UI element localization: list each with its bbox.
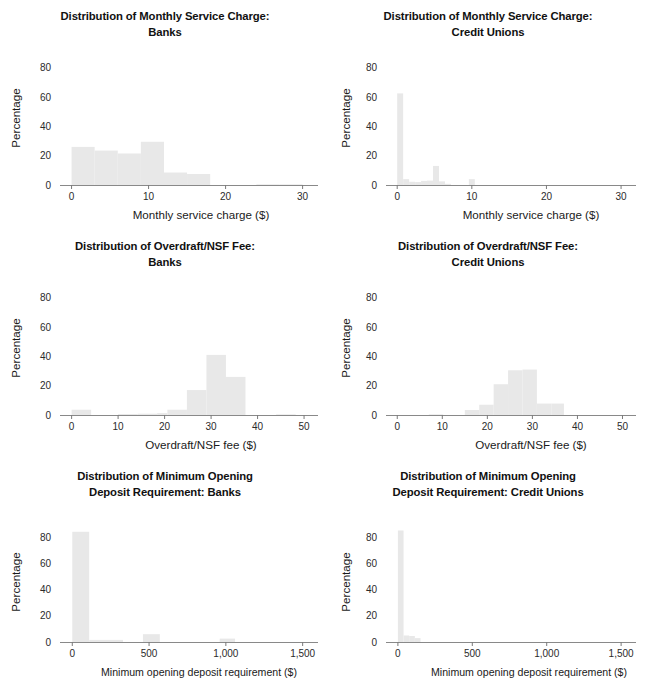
y-axis-title: Percentage <box>339 318 352 377</box>
y-tick-label: 20 <box>366 610 378 621</box>
x-axis: 05001,0001,500 <box>70 643 316 660</box>
y-axis: 020406080 <box>366 62 378 190</box>
y-axis-title: Percentage <box>339 552 352 611</box>
x-tick-label: 40 <box>572 421 584 432</box>
bar-5 <box>522 370 536 415</box>
x-tick-label: 30 <box>206 421 218 432</box>
y-tick-label: 80 <box>366 532 378 543</box>
y-tick-label: 60 <box>40 322 52 333</box>
y-tick-label: 0 <box>45 180 51 191</box>
bar-4 <box>164 173 187 185</box>
y-axis: 020406080 <box>40 532 52 647</box>
panel-5: Distribution of Minimum Opening Deposit … <box>330 460 646 688</box>
x-tick-label: 0 <box>69 191 75 202</box>
bar-7 <box>551 404 564 415</box>
figure-grid: Distribution of Monthly Service Charge: … <box>0 0 646 688</box>
y-tick-label: 20 <box>366 150 378 161</box>
y-axis: 020406080 <box>366 292 378 420</box>
y-tick-label: 60 <box>366 558 378 569</box>
bar-6 <box>256 184 279 185</box>
y-axis: 020406080 <box>366 532 378 647</box>
y-tick-label: 20 <box>40 150 52 161</box>
bar-8 <box>276 414 296 415</box>
x-axis: 01020304050 <box>69 416 310 433</box>
x-axis: 05001,0001,500 <box>395 643 634 660</box>
y-tick-label: 40 <box>366 121 378 132</box>
x-tick-label: 0 <box>395 648 401 659</box>
x-axis: 0102030 <box>69 186 309 203</box>
bar-0 <box>398 530 404 642</box>
x-tick-label: 500 <box>464 648 481 659</box>
bar-6 <box>206 355 226 415</box>
bar-3 <box>415 638 421 642</box>
bars <box>72 355 296 415</box>
panel-4: Distribution of Minimum Opening Deposit … <box>0 460 330 688</box>
x-tick-label: 10 <box>143 191 155 202</box>
bar-0 <box>72 147 95 185</box>
histogram-minimum-opening-deposit-credit-unions: 05001,0001,500020406080Minimum opening d… <box>330 460 646 688</box>
x-tick-label: 0 <box>69 421 75 432</box>
x-axis-title: Overdraft/NSF fee ($) <box>145 438 257 451</box>
bars <box>429 370 564 415</box>
bar-1 <box>403 179 409 185</box>
y-tick-label: 80 <box>366 62 378 73</box>
bar-1 <box>118 414 138 415</box>
x-axis-title: Minimum opening deposit requirement ($) <box>431 666 627 678</box>
y-tick-label: 60 <box>366 92 378 103</box>
bars <box>72 142 303 185</box>
bar-7 <box>279 184 302 185</box>
histogram-minimum-opening-deposit-banks: 05001,0001,500020406080Minimum opening d… <box>0 460 330 688</box>
x-tick-label: 0 <box>394 191 400 202</box>
panel-1: Distribution of Monthly Service Charge: … <box>330 0 646 230</box>
bar-6 <box>537 404 551 415</box>
y-tick-label: 40 <box>366 351 378 362</box>
x-tick-label: 20 <box>482 421 494 432</box>
bar-4 <box>167 410 187 415</box>
y-axis: 020406080 <box>40 292 52 420</box>
bar-3 <box>494 384 508 415</box>
bar-5 <box>187 390 207 415</box>
x-tick-label: 1,000 <box>534 648 559 659</box>
x-tick-label: 1,500 <box>609 648 634 659</box>
x-tick-label: 50 <box>298 421 310 432</box>
y-tick-label: 0 <box>371 637 377 648</box>
bars <box>72 532 235 642</box>
y-tick-label: 0 <box>45 410 51 421</box>
histogram-overdraft-nsf-fee-banks: 01020304050020406080Overdraft/NSF fee ($… <box>0 230 330 460</box>
bar-1 <box>465 410 479 415</box>
panel-2: Distribution of Overdraft/NSF Fee: Banks… <box>0 230 330 460</box>
bar-1 <box>404 635 410 642</box>
bar-0 <box>429 414 443 415</box>
y-tick-label: 60 <box>40 92 52 103</box>
x-tick-label: 30 <box>527 421 539 432</box>
y-tick-label: 0 <box>371 180 377 191</box>
bar-3 <box>157 413 167 415</box>
histogram-overdraft-nsf-fee-credit-unions: 01020304050020406080Overdraft/NSF fee ($… <box>330 230 646 460</box>
x-tick-label: 30 <box>616 191 628 202</box>
x-tick-label: 40 <box>252 421 264 432</box>
x-tick-label: 1,500 <box>290 648 315 659</box>
x-axis-title: Monthly service charge ($) <box>463 208 600 221</box>
y-tick-label: 40 <box>40 121 52 132</box>
y-tick-label: 20 <box>366 380 378 391</box>
y-tick-label: 0 <box>45 637 51 648</box>
bar-5 <box>427 181 433 185</box>
x-axis-title: Overdraft/NSF fee ($) <box>475 438 587 451</box>
bar-2 <box>143 634 160 642</box>
bar-7 <box>226 377 246 415</box>
y-tick-label: 40 <box>40 351 52 362</box>
y-tick-label: 80 <box>366 292 378 303</box>
bar-0 <box>397 93 403 185</box>
x-axis-title: Minimum opening deposit requirement ($) <box>101 666 297 678</box>
bar-2 <box>138 414 158 415</box>
histogram-monthly-service-charge-credit-unions: 0102030020406080Monthly service charge (… <box>330 0 646 230</box>
y-tick-label: 80 <box>40 532 52 543</box>
bar-8 <box>445 184 451 185</box>
x-tick-label: 20 <box>159 421 171 432</box>
y-tick-label: 0 <box>371 410 377 421</box>
x-tick-label: 500 <box>141 648 158 659</box>
y-tick-label: 20 <box>40 380 52 391</box>
x-tick-label: 20 <box>220 191 232 202</box>
bar-9 <box>469 179 475 185</box>
y-tick-label: 40 <box>366 584 378 595</box>
